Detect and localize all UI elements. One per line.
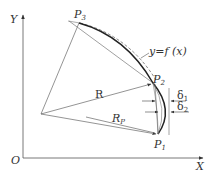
- origin-label: O: [11, 154, 20, 167]
- radius-r-label: R: [95, 88, 104, 101]
- radius-to-p1: [41, 114, 156, 134]
- chord-p3-p2: [69, 21, 153, 83]
- radial-lines: [41, 23, 156, 134]
- curve-label-leader: [141, 53, 149, 58]
- p3-label: P3: [73, 8, 86, 22]
- curve-y-fx-dashed: [80, 23, 156, 80]
- p2-label: P2: [152, 73, 165, 87]
- p1-label: P1: [153, 138, 166, 152]
- curve-label: y=f (x): [148, 45, 187, 58]
- y-axis-label: Y: [10, 13, 19, 26]
- radius-to-p3: [41, 23, 79, 114]
- x-axis-label: X: [195, 160, 205, 173]
- radius-rp-label: RP: [111, 112, 125, 126]
- circular-arc-approximation-diagram: Y X O P3 P2 P1 y=f (x) R RP δ1 δ2: [0, 0, 211, 182]
